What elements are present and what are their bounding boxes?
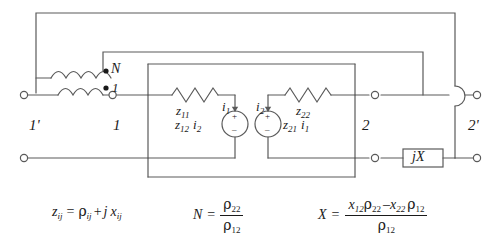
polarity-dot-primary bbox=[103, 85, 108, 90]
transformer-primary-dot-label: 1 bbox=[112, 81, 119, 94]
wire-outer-top-loop bbox=[36, 13, 455, 93]
eq3-denominator: ρ12 bbox=[345, 216, 427, 235]
equation-turns-ratio: N=ρ22ρ12 bbox=[193, 197, 243, 235]
eq1-plus: + bbox=[94, 204, 102, 219]
eq3-den-rho: ρ bbox=[378, 217, 386, 233]
eq3-equals: = bbox=[332, 207, 340, 222]
eq3-x2-subscript: 22 bbox=[396, 204, 405, 214]
terminal-1p-lower[interactable] bbox=[20, 154, 27, 161]
eq2-lhs: N bbox=[193, 207, 202, 222]
eq2-numerator: ρ22 bbox=[220, 196, 243, 216]
resistor-z11 bbox=[172, 88, 218, 102]
eq2-fraction: ρ22ρ12 bbox=[220, 196, 243, 234]
eq1-rho-subscript: ij bbox=[87, 211, 92, 221]
source-right-expression: z21i1 bbox=[283, 118, 309, 134]
wire-hop-crossing bbox=[455, 86, 465, 106]
eq3-rho2-subscript: 12 bbox=[415, 204, 424, 214]
port-label-1: 1 bbox=[113, 118, 121, 133]
current-label-i1: i1 bbox=[222, 100, 230, 116]
src-right-i-subscript: 1 bbox=[305, 124, 310, 134]
eq3-rho1-subscript: 22 bbox=[372, 204, 381, 214]
eq3-lhs: X bbox=[318, 207, 327, 222]
polarity-dot-group bbox=[103, 68, 108, 90]
terminal-2p-upper[interactable] bbox=[473, 91, 480, 98]
eq1-j: j bbox=[104, 204, 108, 219]
port-label-2-prime: 2' bbox=[468, 118, 479, 133]
source-right-minus: – bbox=[265, 125, 270, 134]
eq2-equals: = bbox=[207, 207, 215, 222]
equation-z-definition: zij=ρij+jxij bbox=[52, 203, 122, 221]
wire-group bbox=[28, 13, 473, 177]
eq1-lhs-subscript: ij bbox=[57, 211, 62, 221]
jx-x: X bbox=[416, 149, 425, 164]
port-label-1-prime: 1' bbox=[29, 118, 40, 133]
terminal-1p-upper[interactable] bbox=[20, 91, 27, 98]
current-label-i2: i2 bbox=[256, 100, 264, 116]
source-left-minus: – bbox=[232, 125, 237, 134]
eq1-content: zij=ρij+jxij bbox=[52, 203, 122, 221]
terminal-2-upper[interactable] bbox=[371, 91, 378, 98]
source-left-expression: z12i2 bbox=[175, 118, 201, 134]
circuit-diagram-root: N 1 1' 1 2 2' z11 i1 z12i2 + – i2 z22 z2… bbox=[0, 0, 501, 251]
port-label-2: 2 bbox=[362, 118, 370, 133]
transformer-turns-label: N bbox=[111, 62, 120, 76]
source-right-plus: + bbox=[265, 112, 270, 121]
equation-reactance: X=x12ρ22–x22ρ12ρ12 bbox=[318, 197, 427, 235]
eq2-denominator: ρ12 bbox=[220, 216, 243, 235]
polarity-dot-secondary bbox=[103, 68, 108, 73]
resistor-z22 bbox=[285, 88, 331, 102]
source-left-plus: + bbox=[232, 112, 237, 121]
eq1-x-subscript: ij bbox=[117, 211, 122, 221]
eq3-x1-subscript: 12 bbox=[355, 204, 364, 214]
eq3-den-subscript: 12 bbox=[386, 224, 395, 234]
eq2-num-subscript: 22 bbox=[231, 204, 240, 214]
eq3-content: X=x12ρ22–x22ρ12ρ12 bbox=[318, 197, 427, 235]
eq3-fraction: x12ρ22–x22ρ12ρ12 bbox=[345, 196, 427, 234]
terminal-2p-lower[interactable] bbox=[473, 154, 480, 161]
coil-primary bbox=[58, 89, 103, 96]
terminal-2-lower[interactable] bbox=[371, 154, 378, 161]
src-left-z-subscript: 12 bbox=[180, 124, 189, 134]
eq3-rho1: ρ bbox=[364, 196, 372, 212]
src-right-z-subscript: 21 bbox=[288, 124, 297, 134]
eq1-equals: = bbox=[66, 204, 74, 219]
eq3-numerator: x12ρ22–x22ρ12 bbox=[345, 196, 427, 216]
i1-subscript: 1 bbox=[226, 106, 231, 116]
eq3-minus: – bbox=[383, 197, 390, 212]
eq1-rho: ρ bbox=[78, 203, 86, 219]
eq2-den-subscript: 12 bbox=[231, 224, 240, 234]
reactance-box-label: jX bbox=[412, 150, 424, 164]
eq2-content: N=ρ22ρ12 bbox=[193, 197, 243, 235]
src-left-i-subscript: 2 bbox=[197, 124, 202, 134]
i2-subscript: 2 bbox=[260, 106, 265, 116]
wire-inner-top-loop bbox=[103, 52, 423, 95]
coil-secondary bbox=[51, 72, 111, 79]
